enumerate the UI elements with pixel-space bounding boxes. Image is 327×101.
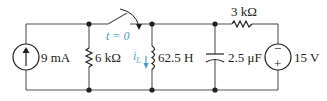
resistor-6k: 6 kΩ [86, 48, 121, 67]
capacitor: 2.5 μF [206, 50, 262, 65]
plus-sign: + [274, 56, 281, 71]
node-dot [86, 21, 91, 26]
current-source: 9 mA [13, 44, 71, 70]
node-dot [212, 87, 217, 92]
inductor: 62.5 H iL [133, 46, 193, 69]
node-dot [149, 87, 154, 92]
current-arrow-icon [144, 63, 149, 69]
voltage-source: − + 15 V [265, 41, 320, 71]
capacitor-label: 2.5 μF [228, 50, 262, 65]
current-source-label: 9 mA [41, 50, 71, 65]
switch: t = 0 [106, 9, 142, 43]
node-dot [86, 87, 91, 92]
inductor-current-label: iL [133, 49, 141, 65]
resistor-3k-label: 3 kΩ [231, 4, 257, 19]
arrow-up-icon [23, 47, 30, 53]
voltage-source-label: 15 V [294, 50, 320, 65]
node-dot [212, 21, 217, 26]
arrow-down-icon [136, 24, 142, 30]
minus-sign: − [274, 41, 281, 56]
circuit-diagram: 9 mA 6 kΩ t = 0 62.5 H iL 2.5 μF 3 kΩ − [0, 0, 327, 101]
switch-label: t = 0 [106, 29, 129, 43]
node-dot [149, 21, 154, 26]
resistor-6k-label: 6 kΩ [95, 50, 121, 65]
inductor-label: 62.5 H [158, 50, 193, 65]
